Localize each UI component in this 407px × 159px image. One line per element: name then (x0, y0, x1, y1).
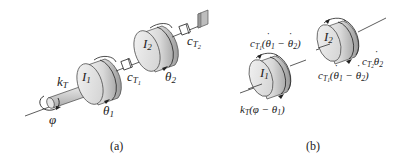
label-b-I2: I2 (324, 30, 333, 45)
free-body-disk-I2 (313, 18, 359, 64)
arrowhead-icon (56, 106, 61, 110)
label-kT: kT (57, 75, 68, 90)
disk-I2 (129, 24, 178, 75)
caption-a: (a) (110, 140, 123, 152)
arrowhead-icon (325, 19, 330, 24)
two-disk-torsional-system-figure: I1 I2 kT cT1 cT2 θ1 θ2 φ (a) I1 I2 cT1(θ… (0, 0, 407, 159)
label-damper2-torque: cT2θ2 (362, 56, 383, 70)
axis-line (290, 60, 306, 66)
label-spring-torque: kT(φ − θ1) (240, 104, 285, 117)
label-damper-torque-on-I1: cT1(θ1 − θ2) (250, 38, 301, 52)
panel-a (25, 10, 208, 116)
caption-b: (b) (306, 140, 320, 152)
disk-I1 (72, 56, 121, 107)
fixed-wall (198, 10, 208, 28)
label-cT2: cT2 (187, 34, 201, 50)
arrowhead-icon (257, 54, 262, 59)
label-theta2: θ2 (165, 70, 176, 85)
axis-line (358, 18, 386, 32)
label-I2: I2 (143, 37, 152, 52)
label-damper-torque-on-I2: cT1(θ1 − θ2) (318, 70, 369, 84)
label-I1: I1 (82, 70, 91, 85)
label-phi: φ (49, 113, 56, 126)
label-cT1: cT1 (127, 70, 141, 86)
label-b-I1: I1 (260, 66, 269, 81)
label-theta1: θ1 (103, 104, 114, 119)
